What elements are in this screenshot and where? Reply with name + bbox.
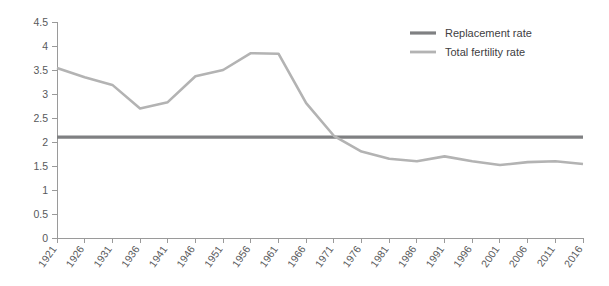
- series-layer: [57, 53, 583, 165]
- y-tick-label: 3.5: [33, 64, 48, 76]
- x-tick-label: 1946: [174, 243, 197, 269]
- y-axis: 00.511.522.533.544.5: [33, 16, 57, 244]
- y-tick-label: 2.5: [33, 112, 48, 124]
- x-tick-label: 2011: [534, 243, 557, 269]
- y-tick-label: 2: [42, 136, 48, 148]
- x-tick-label: 1921: [35, 243, 58, 269]
- chart-canvas: 00.511.522.533.544.5 1921192619311936194…: [0, 0, 609, 286]
- x-tick-label: 1941: [146, 243, 169, 269]
- y-tick-label: 3: [42, 88, 48, 100]
- x-tick-label: 2016: [561, 243, 584, 269]
- y-tick-label: 1: [42, 184, 48, 196]
- y-tick-label: 0: [42, 232, 48, 244]
- x-axis: 1921192619311936194119461951195619611966…: [35, 238, 584, 269]
- y-tick-label: 4: [42, 40, 48, 52]
- y-tick-label: 1.5: [33, 160, 48, 172]
- x-tick-label: 1996: [451, 243, 474, 269]
- x-tick-label: 1976: [340, 243, 363, 269]
- x-tick-label: 1936: [118, 243, 141, 269]
- legend-label: Replacement rate: [445, 27, 532, 39]
- x-tick-label: 1961: [257, 243, 280, 269]
- x-tick-label: 2001: [478, 243, 501, 269]
- x-tick-label: 1986: [395, 243, 418, 269]
- x-tick-label: 1931: [91, 243, 114, 269]
- x-tick-label: 1956: [229, 243, 252, 269]
- chart-legend: Replacement rateTotal fertility rate: [410, 27, 532, 58]
- fertility-rate-line-chart: 00.511.522.533.544.5 1921192619311936194…: [0, 0, 609, 286]
- legend-label: Total fertility rate: [445, 46, 525, 58]
- x-tick-label: 1926: [63, 243, 86, 269]
- x-tick-label: 1951: [202, 243, 225, 269]
- series-line-total-fertility-rate: [57, 53, 583, 165]
- y-tick-label: 0.5: [33, 208, 48, 220]
- x-tick-label: 1981: [368, 243, 391, 269]
- x-tick-label: 2006: [506, 243, 529, 269]
- x-tick-label: 1966: [285, 243, 308, 269]
- x-tick-label: 1971: [312, 243, 335, 269]
- x-tick-label: 1991: [423, 243, 446, 269]
- y-tick-label: 4.5: [33, 16, 48, 28]
